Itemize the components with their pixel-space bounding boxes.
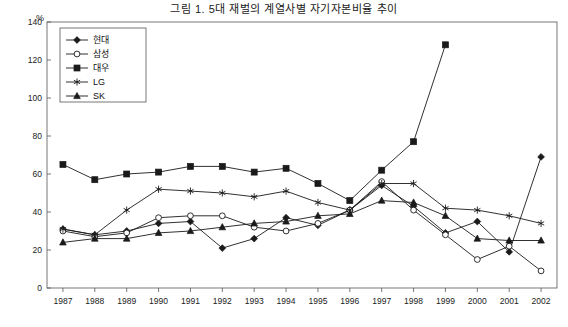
- legend-label-SK: SK: [93, 91, 105, 101]
- x-tick-label: 1988: [85, 296, 104, 306]
- x-tick-label: 1989: [117, 296, 136, 306]
- marker-square: [92, 177, 98, 183]
- x-tick-label: 1994: [277, 296, 296, 306]
- y-tick-label: 80: [33, 131, 43, 141]
- y-tick-label: 0: [37, 283, 42, 293]
- legend-label-현대: 현대: [93, 35, 109, 45]
- y-tick-label: 120: [28, 55, 42, 65]
- x-tick-label: 1999: [436, 296, 455, 306]
- x-tick-label: 2001: [500, 296, 519, 306]
- marker-square: [124, 171, 130, 177]
- x-tick-label: 2002: [532, 296, 551, 306]
- marker-square: [442, 42, 448, 48]
- y-tick-label: 20: [33, 245, 43, 255]
- legend-label-LG: LG: [93, 77, 105, 87]
- legend: 현대삼성대우LGSK: [60, 28, 146, 102]
- x-tick-label: 1997: [372, 296, 391, 306]
- x-tick-label: 1990: [149, 296, 168, 306]
- marker-circle: [474, 257, 480, 263]
- marker-circle: [315, 221, 321, 227]
- x-tick-label: 1998: [404, 296, 423, 306]
- marker-square: [251, 169, 257, 175]
- marker-circle: [74, 51, 80, 57]
- y-tick-label: 40: [33, 207, 43, 217]
- marker-square: [74, 65, 80, 71]
- y-tick-label: 140: [28, 17, 42, 27]
- marker-square: [283, 165, 289, 171]
- marker-square: [379, 167, 385, 173]
- x-tick-label: 2000: [468, 296, 487, 306]
- x-tick-label: 1993: [245, 296, 264, 306]
- x-tick-label: 1996: [340, 296, 359, 306]
- marker-circle: [188, 213, 194, 219]
- marker-circle: [411, 207, 417, 213]
- chart-root: 그림 1. 5대 재벌의 계열사별 자기자본비율 추이 % 0204060801…: [0, 0, 568, 327]
- marker-square: [60, 162, 66, 168]
- marker-square: [347, 198, 353, 204]
- x-tick-label: 1992: [213, 296, 232, 306]
- marker-circle: [506, 243, 512, 249]
- marker-square: [156, 169, 162, 175]
- line-chart: 0204060801001201401987198819891990199119…: [0, 0, 568, 327]
- marker-square: [187, 163, 193, 169]
- marker-circle: [283, 228, 289, 234]
- y-tick-label: 100: [28, 93, 42, 103]
- x-tick-label: 1991: [181, 296, 200, 306]
- marker-circle: [443, 232, 449, 238]
- marker-square: [219, 163, 225, 169]
- x-tick-label: 1987: [53, 296, 72, 306]
- marker-circle: [156, 215, 162, 221]
- legend-label-대우: 대우: [93, 63, 109, 73]
- marker-square: [411, 139, 417, 145]
- y-tick-label: 60: [33, 169, 43, 179]
- legend-label-삼성: 삼성: [93, 49, 109, 59]
- marker-square: [315, 181, 321, 187]
- x-tick-label: 1995: [308, 296, 327, 306]
- marker-circle: [538, 268, 544, 274]
- marker-circle: [219, 213, 225, 219]
